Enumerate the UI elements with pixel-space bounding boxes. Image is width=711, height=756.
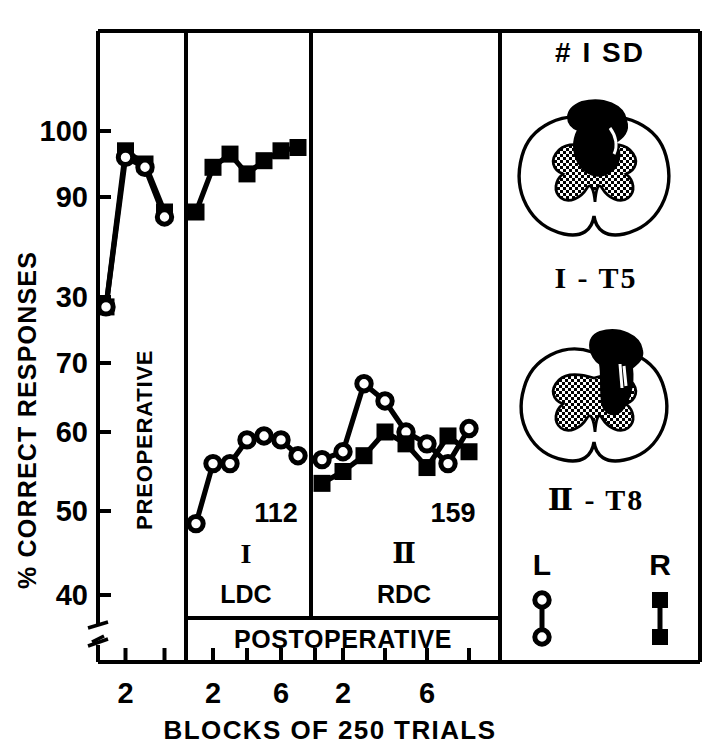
panel-annotation: 112	[254, 498, 298, 528]
diagram-1-caption: I - T5	[554, 261, 637, 294]
legend-right-label: R	[649, 548, 671, 581]
figure-root: 100903070605040% CORRECT RESPONSES22626B…	[0, 0, 711, 756]
y-tick-label: 60	[56, 416, 88, 448]
data-point-filled-square	[315, 476, 330, 491]
panel-sublabel: RDC	[377, 580, 431, 608]
panel-sublabel: LDC	[220, 580, 271, 608]
data-point-filled-square	[378, 425, 393, 440]
legend-filled-square	[652, 592, 668, 608]
x-axis-title: BLOCKS OF 250 TRIALS	[164, 715, 497, 745]
data-point-filled-square	[223, 147, 238, 162]
data-point-open-circle	[99, 300, 113, 314]
data-point-open-circle	[441, 456, 455, 470]
data-point-filled-square	[357, 448, 372, 463]
panel-roman-label: I	[241, 538, 252, 569]
panel-roman-label: Ⅱ	[392, 538, 416, 569]
data-point-open-circle	[336, 445, 350, 459]
y-tick-label: 40	[56, 579, 88, 611]
data-point-filled-square	[441, 428, 456, 443]
data-point-open-circle	[240, 433, 254, 447]
x-tick-label: 2	[335, 677, 351, 709]
data-point-filled-square	[206, 160, 221, 175]
y-axis-title: % CORRECT RESPONSES	[13, 251, 41, 589]
data-point-open-circle	[118, 150, 132, 164]
data-point-open-circle	[420, 437, 434, 451]
data-point-open-circle	[378, 394, 392, 408]
x-tick-label: 2	[117, 677, 133, 709]
data-point-filled-square	[257, 153, 272, 168]
y-tick-label: 90	[56, 181, 88, 213]
data-point-open-circle	[223, 456, 237, 470]
data-point-open-circle	[157, 210, 171, 224]
inset-title: # I SD	[555, 37, 645, 68]
data-point-filled-square	[291, 140, 306, 155]
data-point-open-circle	[206, 456, 220, 470]
legend-open-circle	[535, 593, 549, 607]
y-tick-label: 70	[56, 347, 88, 379]
x-tick-label: 2	[205, 677, 221, 709]
data-point-filled-square	[462, 444, 477, 459]
data-point-filled-square	[240, 166, 255, 181]
y-tick-label: 100	[40, 115, 88, 147]
diagram-2-caption: Ⅱ - T8	[548, 483, 645, 516]
data-point-open-circle	[138, 160, 152, 174]
preoperative-label: PREOPERATIVE	[132, 350, 157, 530]
data-point-open-circle	[357, 377, 371, 391]
data-point-filled-square	[274, 143, 289, 158]
postoperative-label: POSTOPERATIVE	[234, 625, 452, 653]
panel-annotation: 159	[430, 498, 475, 528]
legend-filled-square	[652, 629, 668, 645]
data-point-filled-square	[420, 460, 435, 475]
data-point-open-circle	[315, 452, 329, 466]
data-point-open-circle	[257, 429, 271, 443]
y-tick-label: 30	[56, 281, 88, 313]
data-point-filled-square	[189, 205, 204, 220]
data-point-open-circle	[274, 433, 288, 447]
legend-left-label: L	[533, 548, 551, 581]
x-tick-label: 6	[273, 677, 289, 709]
y-tick-label: 50	[56, 495, 88, 527]
data-point-open-circle	[291, 449, 305, 463]
data-point-filled-square	[336, 464, 351, 479]
data-point-open-circle	[189, 516, 203, 530]
data-point-filled-square	[399, 436, 414, 451]
data-point-open-circle	[462, 421, 476, 435]
legend-open-circle	[535, 630, 549, 644]
x-tick-label: 6	[419, 677, 435, 709]
